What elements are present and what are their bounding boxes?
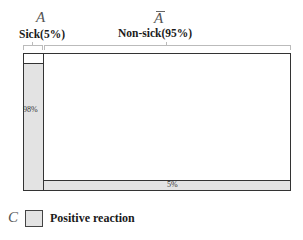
legend-label: Positive reaction [50,211,135,226]
sick-bracket-tick [32,42,33,46]
nonsick-bracket [44,45,291,50]
set-a-symbol: A [36,9,45,26]
nonsick-negative-cell [43,53,292,181]
sick-label: Sick(5%) [19,28,65,40]
set-a-symbol-text: A [154,10,163,26]
overline [156,11,165,12]
legend-c-symbol: C [8,209,18,226]
sick-positive-cell [23,63,44,191]
sick-positive-pct: 98% [23,105,38,114]
nonsick-bracket-tick [166,42,167,46]
nonsick-positive-pct: 5% [167,180,178,189]
set-a-complement-symbol: A [154,9,163,27]
nonsick-label: Non-sick(95%) [118,27,192,39]
sick-bracket [23,45,43,50]
legend-swatch [25,210,43,227]
